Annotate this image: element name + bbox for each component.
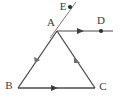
label-point-a: A bbox=[47, 16, 55, 28]
geometry-figure: A B C D E bbox=[0, 0, 121, 101]
label-point-d: D bbox=[97, 14, 105, 26]
ad-direction-arrow-icon bbox=[77, 28, 84, 34]
point-e-dot bbox=[68, 5, 72, 9]
bc-direction-arrow-icon bbox=[51, 85, 58, 91]
point-d-dot bbox=[99, 29, 103, 33]
label-point-e: E bbox=[60, 0, 67, 12]
label-point-b: B bbox=[5, 79, 12, 91]
ac-tick-arrow-icon bbox=[74, 57, 80, 63]
label-point-c: C bbox=[99, 80, 106, 92]
geometry-diagram-canvas: A B C D E bbox=[0, 0, 121, 101]
